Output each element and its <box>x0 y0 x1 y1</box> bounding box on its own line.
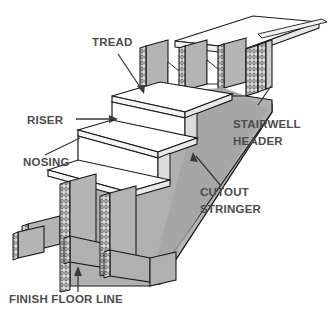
label-stairwell-header-line2: HEADER <box>233 135 283 147</box>
stringer-bottom-foot <box>150 252 176 286</box>
leader-nosing <box>45 138 80 155</box>
label-finish-floor-line: FINISH FLOOR LINE <box>9 293 123 305</box>
label-cutout-stringer-line2: STRINGER <box>200 203 262 215</box>
floor-joist-3 <box>218 38 246 90</box>
label-nosing: NOSING <box>23 156 70 168</box>
stair-construction-diagram: TREAD RISER NOSING STAIRWELL HEADER CUTO… <box>0 0 329 314</box>
label-riser: RISER <box>27 114 64 126</box>
label-tread: TREAD <box>92 36 133 48</box>
stairwell-header-member <box>246 40 272 96</box>
leader-tread <box>118 54 142 90</box>
label-stairwell-header-line1: STAIRWELL <box>233 118 301 130</box>
label-cutout-stringer-line1: CUTOUT <box>200 186 249 198</box>
illustration-canvas: TREAD RISER NOSING STAIRWELL HEADER CUTO… <box>0 0 329 314</box>
stringer-foot-stub <box>13 226 44 260</box>
